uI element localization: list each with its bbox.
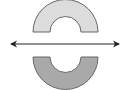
reflection-diagram (0, 0, 126, 90)
reflected-half-annulus (33, 57, 98, 90)
original-half-annulus (33, 0, 98, 32)
